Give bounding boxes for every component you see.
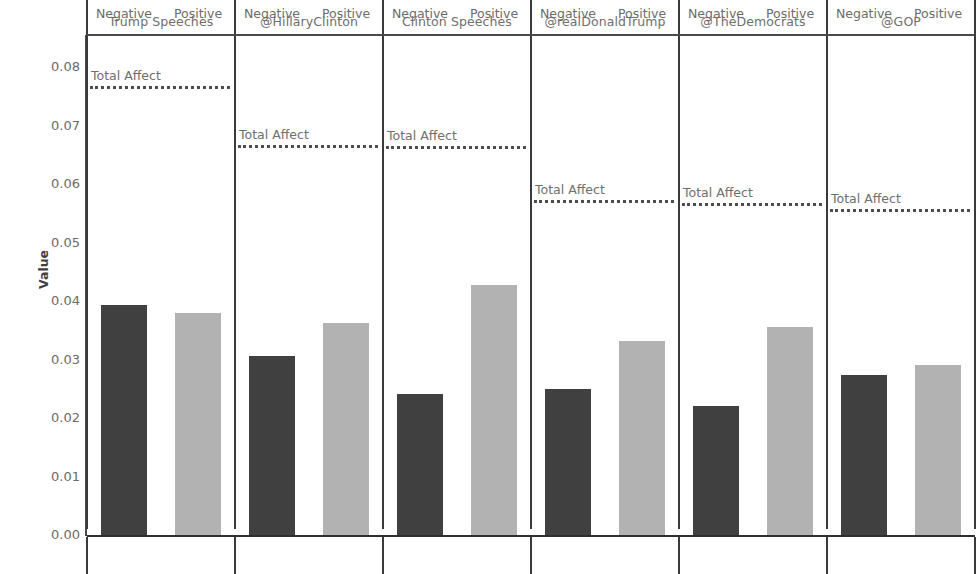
bar-negative — [101, 305, 147, 535]
x-tick-label: Negative — [531, 6, 605, 21]
total-affect-reference-line — [682, 203, 822, 206]
x-tick-label: Negative — [87, 6, 161, 21]
x-axis-separator — [826, 537, 828, 574]
total-affect-label: Total Affect — [387, 128, 457, 143]
bar-positive — [915, 365, 961, 535]
panel-header-rule — [87, 34, 975, 36]
y-tick-label: 0.04 — [34, 294, 80, 307]
bar-negative — [693, 406, 739, 535]
x-tick-label: Positive — [457, 6, 531, 21]
x-tick-label: Positive — [901, 6, 975, 21]
y-tick-label: 0.01 — [34, 470, 80, 483]
y-tick-label: 0.02 — [34, 411, 80, 424]
bar-positive — [323, 323, 369, 535]
x-axis-separator — [382, 537, 384, 574]
y-tick-label: 0.05 — [34, 236, 80, 249]
x-tick-label: Negative — [679, 6, 753, 21]
x-axis-separator — [974, 537, 976, 574]
bar-negative — [397, 394, 443, 535]
y-tick-label: 0.03 — [34, 353, 80, 366]
y-tick-label: 0.08 — [34, 60, 80, 73]
y-tick-label: 0.07 — [34, 119, 80, 132]
x-tick-label: Negative — [383, 6, 457, 21]
panel-separator — [974, 0, 976, 529]
total-affect-reference-line — [534, 200, 674, 203]
panel-separator — [826, 0, 828, 529]
y-tick-label: 0.06 — [34, 177, 80, 190]
total-affect-reference-line — [830, 209, 970, 212]
x-tick-label: Positive — [753, 6, 827, 21]
total-affect-label: Total Affect — [535, 182, 605, 197]
x-axis-separator — [86, 537, 88, 574]
total-affect-label: Total Affect — [683, 185, 753, 200]
panel-separator — [86, 0, 88, 529]
total-affect-label: Total Affect — [91, 68, 161, 83]
x-tick-label: Negative — [827, 6, 901, 21]
total-affect-label: Total Affect — [239, 127, 309, 142]
x-axis-separator — [530, 537, 532, 574]
bar-positive — [175, 313, 221, 535]
panel-separator — [234, 0, 236, 529]
x-axis-separator — [234, 537, 236, 574]
x-tick-label: Negative — [235, 6, 309, 21]
x-tick-label: Positive — [605, 6, 679, 21]
total-affect-label: Total Affect — [831, 191, 901, 206]
panel-separator — [382, 0, 384, 529]
x-tick-label: Positive — [309, 6, 383, 21]
x-tick-label: Positive — [161, 6, 235, 21]
bar-positive — [471, 285, 517, 535]
bar-positive — [619, 341, 665, 535]
total-affect-reference-line — [386, 146, 526, 149]
total-affect-reference-line — [90, 86, 230, 89]
bar-negative — [249, 356, 295, 535]
total-affect-reference-line — [238, 145, 378, 148]
panel-separator — [530, 0, 532, 529]
x-axis-separator — [678, 537, 680, 574]
bar-negative — [841, 375, 887, 535]
affect-small-multiples-chart: Value 0.000.010.020.030.040.050.060.070.… — [0, 0, 977, 574]
bar-positive — [767, 327, 813, 535]
panel-separator — [678, 0, 680, 529]
y-tick-label: 0.00 — [34, 528, 80, 541]
bar-negative — [545, 389, 591, 535]
